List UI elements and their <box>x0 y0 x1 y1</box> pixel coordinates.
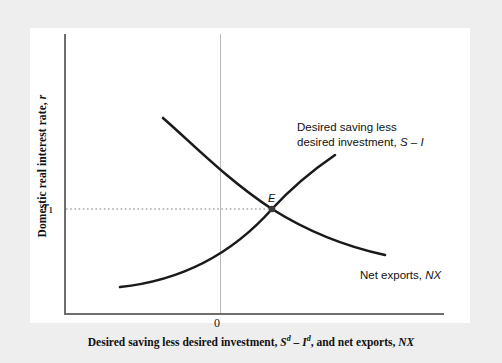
equilibrium-point-marker <box>269 206 276 213</box>
net-exports-annotation-prefix: Net exports, <box>360 269 425 281</box>
net-exports-annotation: Net exports, NX <box>360 268 441 283</box>
y-axis-title: Domestic real interest rate, r <box>36 46 48 286</box>
saving-annotation-line2-symbol: S – I <box>400 136 424 148</box>
equilibrium-point-label: E <box>268 192 275 204</box>
y-axis-title-symbol: r <box>36 95 48 100</box>
y-axis-title-text: Domestic real interest rate, <box>36 99 48 237</box>
x-tick-label-zero: 0 <box>214 316 220 331</box>
saving-annotation-line2-prefix: desired investment, <box>297 136 400 148</box>
x-axis-title-part2: , and net exports, <box>311 336 399 348</box>
x-axis-title: Desired saving less desired investment, … <box>0 334 502 348</box>
net-exports-annotation-symbol: NX <box>425 269 441 281</box>
saving-annotation-line1: Desired saving less <box>297 121 397 133</box>
figure-container: r1 0 E Desired saving less desired inves… <box>0 0 502 363</box>
saving-less-investment-annotation: Desired saving less desired investment, … <box>297 120 424 150</box>
x-axis-title-dash: – <box>291 336 303 348</box>
curves-layer <box>0 0 502 363</box>
x-axis-title-part1: Desired saving less desired investment, <box>88 336 281 348</box>
x-axis-title-nx: NX <box>398 336 414 348</box>
